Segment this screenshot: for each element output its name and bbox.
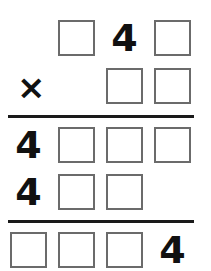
partial2-digit-3-box[interactable]	[106, 174, 143, 210]
sum-rule-line	[8, 220, 194, 223]
partial1-digit-4-box[interactable]	[154, 127, 191, 163]
multiplier-digit-2-box[interactable]	[154, 68, 191, 104]
multiplier-digit-1-box[interactable]	[106, 68, 143, 104]
partial1-digit-2-box[interactable]	[58, 127, 95, 163]
multiplication-puzzle: 4 × 4 4 4	[0, 0, 211, 271]
result-digit-4: 4	[154, 232, 191, 268]
result-digit-3-box[interactable]	[106, 232, 143, 268]
partial1-digit-1: 4	[10, 127, 47, 163]
multiplicand-digit-1-box[interactable]	[58, 20, 95, 56]
multiplicand-digit-3-box[interactable]	[154, 20, 191, 56]
result-digit-2-box[interactable]	[58, 232, 95, 268]
multiply-sign: ×	[17, 69, 46, 105]
partial2-digit-1: 4	[10, 174, 47, 210]
product-rule-line	[8, 115, 194, 118]
partial2-digit-2-box[interactable]	[58, 174, 95, 210]
result-digit-1-box[interactable]	[10, 232, 47, 268]
multiplicand-digit-2: 4	[106, 20, 143, 56]
partial1-digit-3-box[interactable]	[106, 127, 143, 163]
